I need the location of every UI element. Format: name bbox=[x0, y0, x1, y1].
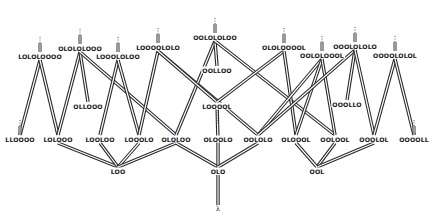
node-label: LOOOLOLOO bbox=[95, 53, 141, 60]
node-label: OOOLOLOLO bbox=[332, 43, 378, 50]
node-label: LOOOOL bbox=[201, 103, 232, 110]
node-label: OLO bbox=[210, 168, 227, 175]
lattice-diagram: LOLOLOOOOOLOLOLOOOLOOOLOLOOLOOOOLOLOOOLO… bbox=[0, 0, 437, 216]
node-label: OOLOLO bbox=[242, 136, 273, 143]
node-label: OOLLOO bbox=[201, 67, 232, 74]
root-lambda-label: λ bbox=[216, 205, 220, 213]
node-label: LOO bbox=[110, 168, 127, 175]
node-label: OLOLOLOOO bbox=[57, 45, 103, 52]
node-label: OLOLOOOOL bbox=[261, 44, 307, 51]
node-label: OOOOLOLOL bbox=[372, 52, 418, 59]
node-label: LOLOLOOOO bbox=[17, 53, 63, 60]
node-label: LOLOOO bbox=[42, 136, 73, 143]
node-label: OOL bbox=[309, 168, 326, 175]
node-label: LLOOOO bbox=[4, 136, 35, 143]
node-label: LOOLOO bbox=[84, 136, 115, 143]
node-label: LOOOLO bbox=[123, 136, 154, 143]
node-label: OOOLOL bbox=[358, 136, 389, 143]
node-label: LOOOOLOLO bbox=[135, 44, 181, 51]
node-label: OOLOLOOOL bbox=[299, 52, 345, 59]
node-label: OOOOLL bbox=[398, 136, 430, 143]
node-label: OOOLLO bbox=[331, 101, 362, 108]
node-label: OLOOLO bbox=[202, 136, 233, 143]
node-label: OOLOOL bbox=[319, 136, 350, 143]
node-label: OOLOLOLOO bbox=[192, 34, 238, 41]
node-label: OLLOOO bbox=[72, 103, 103, 110]
node-label: OLOOOL bbox=[280, 136, 311, 143]
node-label: OLOLOO bbox=[160, 136, 191, 143]
